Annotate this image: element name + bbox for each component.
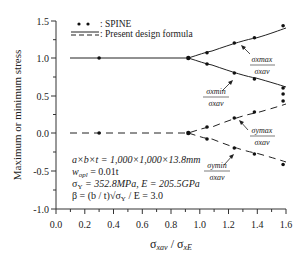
svg-text:1.6: 1.6 [280,219,293,230]
annotation-ymax: σymax [252,126,273,135]
svg-text:0.0: 0.0 [50,219,63,230]
x-ticks [56,209,286,214]
y-tick-labels: 1.5 1.0 0.5 0.0 -0.5 -1.0 [33,16,49,215]
svg-text:1.5: 1.5 [37,16,50,27]
svg-text:1.4: 1.4 [251,219,264,230]
svg-text:-1.0: -1.0 [33,204,49,215]
parameters: a×b×t = 1,000×1,000×13.8mm wopl = 0.01t … [72,154,200,203]
svg-text:0.0: 0.0 [37,128,50,139]
svg-text:0.6: 0.6 [136,219,149,230]
svg-text:0.2: 0.2 [79,219,92,230]
svg-text:0.5: 0.5 [37,91,50,102]
svg-text:1.0: 1.0 [37,53,50,64]
svg-text:σxav: σxav [254,67,269,76]
curve-ymin [188,133,286,162]
svg-text:0.8: 0.8 [165,219,178,230]
svg-text:σxav: σxav [209,173,224,182]
y-axis-label: Maximum or minimum stress [11,50,23,180]
legend: : SPINE : Present design formula [71,19,193,39]
legend-spine-label: : SPINE [100,19,132,29]
annotation-ymin: σymin [207,161,227,170]
annotation-xmin: σxmin [206,87,226,96]
y-ticks [51,21,56,209]
svg-text:σxav: σxav [254,138,269,147]
svg-text:1.0: 1.0 [194,219,207,230]
svg-text:σxav: σxav [208,99,223,108]
legend-dot-icon [77,22,80,25]
chart: 1.5 1.0 0.5 0.0 -0.5 -1.0 0.0 0.2 0.4 0.… [0,0,306,258]
svg-text:-0.5: -0.5 [33,166,49,177]
x-tick-labels: 0.0 0.2 0.4 0.6 0.8 1.0 1.2 1.4 1.6 [50,219,293,230]
svg-text:1.2: 1.2 [222,219,235,230]
x-axis-label: σxav / σxE [150,237,192,252]
legend-formula-label: : Present design formula [100,29,193,39]
legend-dot-icon [86,22,89,25]
param-beta: β = (b / t)√σY / E = 3.0 [72,190,163,203]
svg-text:0.4: 0.4 [107,219,120,230]
annotation-xmax: σxmax [252,55,273,64]
param-dimensions: a×b×t = 1,000×1,000×13.8mm [72,154,200,165]
